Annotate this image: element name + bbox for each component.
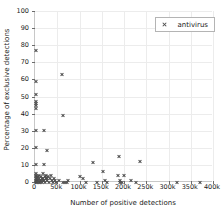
gridline-horizontal	[35, 131, 212, 132]
y-tick-label: 10	[3, 161, 29, 168]
data-point-marker	[41, 171, 45, 175]
gridline-horizontal	[35, 97, 212, 98]
data-point-marker	[34, 175, 38, 179]
data-point-marker	[175, 180, 179, 184]
data-point-marker	[116, 173, 120, 177]
data-point-marker	[35, 177, 39, 181]
x-tick-label: 50k	[50, 184, 62, 191]
x-tick	[213, 181, 214, 184]
data-point-marker	[34, 173, 38, 177]
gridline-horizontal	[35, 45, 212, 46]
y-tick-label: 30	[3, 127, 29, 134]
data-point-marker	[41, 178, 45, 182]
data-point-marker	[36, 178, 40, 182]
data-point-marker	[117, 154, 121, 158]
y-tick-label: 80	[3, 42, 29, 49]
x-tick-label: 100k	[70, 184, 86, 191]
data-point-marker	[34, 171, 38, 175]
data-point-marker	[34, 103, 38, 107]
y-tick	[32, 97, 35, 98]
data-point-marker	[43, 175, 47, 179]
data-point-marker	[45, 177, 49, 181]
legend[interactable]: antivirus	[155, 17, 215, 32]
x-tick-label: 300k	[159, 184, 175, 191]
gridline-horizontal	[35, 79, 212, 80]
data-point-marker	[37, 173, 41, 177]
x-tick	[80, 181, 81, 184]
plot-area	[34, 11, 212, 182]
x-tick	[191, 181, 192, 184]
y-tick	[32, 62, 35, 63]
x-axis-label: Number of positive detections	[34, 199, 212, 208]
gridline-horizontal	[35, 114, 212, 115]
data-point-marker	[38, 180, 42, 184]
y-tick-label: 90	[3, 25, 29, 32]
data-point-marker	[39, 178, 43, 182]
y-tick	[32, 131, 35, 132]
data-point-marker	[49, 173, 53, 177]
y-tick	[32, 28, 35, 29]
x-tick-label: 350k	[182, 184, 198, 191]
y-tick-label: 50	[3, 93, 29, 100]
x-tick-label: 250k	[137, 184, 153, 191]
x-tick-label: 150k	[93, 184, 109, 191]
y-tick-label: 100	[3, 8, 29, 15]
x-tick	[35, 181, 36, 184]
y-tick	[32, 79, 35, 80]
y-tick-label: 70	[3, 59, 29, 66]
data-point-marker	[138, 159, 142, 163]
y-tick-label: 0	[3, 179, 29, 186]
data-point-marker	[81, 177, 85, 181]
data-point-marker	[34, 177, 38, 181]
data-point-marker	[37, 180, 41, 184]
data-point-marker	[45, 178, 49, 182]
data-point-marker	[103, 178, 107, 182]
gridline-horizontal	[35, 62, 212, 63]
x-tick	[124, 181, 125, 184]
y-tick	[32, 182, 35, 183]
y-tick-label: 20	[3, 144, 29, 151]
gridline-horizontal	[35, 148, 212, 149]
gridline-vertical	[213, 11, 214, 181]
x-tick-label: 200k	[115, 184, 131, 191]
y-tick-label: 60	[3, 76, 29, 83]
data-point-marker	[36, 175, 40, 179]
legend-marker-icon	[162, 22, 167, 27]
gridline-horizontal	[35, 11, 212, 12]
data-point-marker	[44, 177, 48, 181]
data-point-marker	[39, 175, 43, 179]
legend-label: antivirus	[178, 21, 208, 29]
x-tick	[146, 181, 147, 184]
data-point-marker	[37, 177, 41, 181]
data-point-marker	[48, 177, 52, 181]
y-tick	[32, 11, 35, 12]
x-tick	[102, 181, 103, 184]
scatter-plot-figure: Percentage of exclusive detections Numbe…	[0, 0, 221, 219]
y-tick	[32, 148, 35, 149]
x-tick-label: 0	[32, 184, 36, 191]
y-tick-label: 40	[3, 110, 29, 117]
y-tick	[32, 45, 35, 46]
data-point-marker	[66, 178, 70, 182]
x-tick-label: 400k	[204, 184, 220, 191]
data-point-marker	[65, 180, 69, 184]
data-point-marker	[60, 72, 64, 76]
data-point-marker	[63, 180, 67, 184]
data-point-marker	[118, 178, 122, 182]
data-point-marker	[34, 48, 38, 52]
data-point-marker	[129, 178, 133, 182]
data-point-marker	[52, 177, 56, 181]
data-point-marker	[34, 101, 38, 105]
data-point-marker	[38, 178, 42, 182]
x-tick	[169, 181, 170, 184]
data-point-marker	[42, 178, 46, 182]
data-point-marker	[50, 178, 54, 182]
y-tick	[32, 114, 35, 115]
data-point-marker	[198, 180, 202, 184]
data-point-marker	[34, 106, 38, 110]
gridline-horizontal	[35, 165, 212, 166]
x-tick	[57, 181, 58, 184]
y-tick	[32, 165, 35, 166]
data-point-marker	[43, 180, 47, 184]
data-point-marker	[46, 175, 50, 179]
